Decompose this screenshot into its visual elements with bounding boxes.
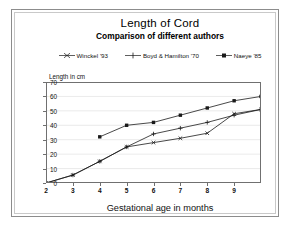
x-tick-mark xyxy=(127,183,128,186)
legend-label-naeye: Naeye '85 xyxy=(234,52,262,59)
y-tick-label: 30 xyxy=(35,136,57,143)
page-title: Length of Cord xyxy=(0,17,292,29)
x-tick-mark xyxy=(100,183,101,186)
line-cross-marker-icon xyxy=(59,52,75,59)
x-tick-label: 3 xyxy=(71,187,75,194)
legend-item-naeye: Naeye '85 xyxy=(216,52,262,59)
legend-label-winckel: Winckel '93 xyxy=(77,52,108,59)
x-axis-label: Gestational age in months xyxy=(0,203,292,213)
legend-item-boyd-hamilton: Boyd & Hamilton '70 xyxy=(125,52,199,59)
line-plus-marker-icon xyxy=(125,52,141,59)
y-tick-mark xyxy=(43,169,46,170)
y-tick-label: 70 xyxy=(35,79,57,86)
legend-item-winckel: Winckel '93 xyxy=(59,52,108,59)
x-tick-mark xyxy=(73,183,74,186)
y-tick-mark xyxy=(43,183,46,184)
y-tick-label: 60 xyxy=(35,93,57,100)
x-tick-label: 8 xyxy=(205,187,209,194)
x-tick-mark xyxy=(207,183,208,186)
chart-legend: Winckel '93 Boyd & Hamilton '70 Naeye '8… xyxy=(0,52,292,59)
x-tick-label: 9 xyxy=(232,187,236,194)
x-tick-label: 2 xyxy=(44,187,48,194)
y-tick-mark xyxy=(43,82,46,83)
y-tick-mark xyxy=(43,111,46,112)
x-tick-label: 7 xyxy=(179,187,183,194)
plot-area xyxy=(46,82,261,183)
x-tick-label: 6 xyxy=(152,187,156,194)
chart-subtitle: Comparison of different authors xyxy=(0,31,292,41)
x-tick-label: 5 xyxy=(125,187,129,194)
x-tick-mark xyxy=(154,183,155,186)
y-tick-mark xyxy=(43,125,46,126)
y-tick-mark xyxy=(43,154,46,155)
y-tick-mark xyxy=(43,96,46,97)
y-tick-mark xyxy=(43,140,46,141)
legend-label-boyd-hamilton: Boyd & Hamilton '70 xyxy=(143,52,199,59)
y-tick-label: 10 xyxy=(35,165,57,172)
x-tick-mark xyxy=(234,183,235,186)
y-tick-label: 0 xyxy=(35,180,57,187)
y-tick-label: 40 xyxy=(35,122,57,129)
line-square-marker-icon xyxy=(216,52,232,59)
plot-frame xyxy=(46,82,261,183)
x-tick-label: 4 xyxy=(98,187,102,194)
y-tick-label: 50 xyxy=(35,107,57,114)
y-tick-label: 20 xyxy=(35,151,57,158)
x-tick-mark xyxy=(180,183,181,186)
